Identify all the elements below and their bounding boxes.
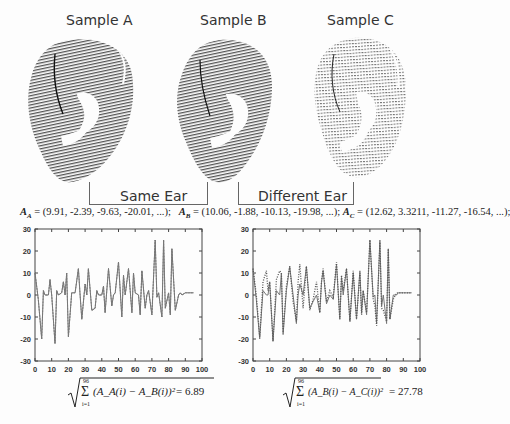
y-tick-label: -10 [238, 313, 249, 322]
series-line-A_A [35, 240, 194, 343]
x-tick-label: 0 [33, 365, 37, 374]
y-tick-label: 30 [23, 225, 31, 234]
y-tick-label: 10 [23, 269, 31, 278]
line-chart-same-ear: -30-20-1001020300102030405060708090100 [10, 222, 210, 374]
svg-text:Σ: Σ [296, 384, 304, 399]
svg-text:i=1: i=1 [82, 401, 90, 407]
x-tick-label: 30 [81, 365, 89, 374]
y-tick-label: -30 [238, 357, 249, 366]
x-tick-label: 70 [366, 365, 374, 374]
sample-c-title: Sample C [327, 12, 394, 28]
y-tick-label: 20 [241, 247, 249, 256]
y-tick-label: 0 [245, 291, 249, 300]
sample-b-title: Sample B [200, 12, 267, 28]
formula-different-ear: 96 Σ i=1 (A_B(i) − A_C(i))² = 27.78 [281, 375, 441, 409]
formula-same-ear: 96 Σ i=1 (A_A(i) − A_B(i))² = 6.89 [66, 375, 216, 409]
y-tick-label: 30 [241, 225, 249, 234]
x-tick-label: 10 [266, 365, 274, 374]
x-tick-label: 100 [414, 365, 427, 374]
ear-point-cloud-c [300, 34, 420, 184]
svg-text:= 6.89: = 6.89 [176, 385, 205, 397]
svg-text:Σ: Σ [81, 384, 89, 399]
vector-b: AB = (10.06, -1.88, -10.13, -19.98, ...)… [179, 206, 340, 217]
ear-point-cloud-b [160, 34, 290, 184]
x-tick-label: 20 [282, 365, 290, 374]
x-tick-label: 100 [196, 365, 209, 374]
x-tick-label: 80 [382, 365, 390, 374]
vector-definitions: AA = (9.91, -2.39, -9.63, -20.01, ...); … [20, 206, 471, 220]
x-tick-label: 60 [349, 365, 357, 374]
x-tick-label: 90 [181, 365, 189, 374]
plot-frame [35, 229, 202, 361]
y-tick-label: 0 [27, 291, 31, 300]
x-tick-label: 40 [98, 365, 106, 374]
series-line-A_B [35, 240, 194, 343]
x-tick-label: 30 [299, 365, 307, 374]
vector-c: AC = (12.62, 3.3211, -11.27, -16.54, ...… [343, 206, 510, 217]
y-tick-label: -20 [238, 335, 249, 344]
x-tick-label: 50 [332, 365, 340, 374]
same-ear-label: Same Ear [120, 188, 187, 204]
x-tick-label: 50 [114, 365, 122, 374]
x-tick-label: 0 [251, 365, 255, 374]
svg-text:i=1: i=1 [297, 401, 305, 407]
y-tick-label: 10 [241, 269, 249, 278]
y-tick-label: -30 [20, 357, 31, 366]
ear-point-cloud-a [15, 34, 145, 184]
x-tick-label: 70 [148, 365, 156, 374]
svg-text:(A_A(i) − A_B(i))²: (A_A(i) − A_B(i))² [93, 385, 176, 398]
x-tick-label: 80 [164, 365, 172, 374]
y-tick-label: -20 [20, 335, 31, 344]
x-tick-label: 10 [48, 365, 56, 374]
sample-a-title: Sample A [66, 12, 133, 28]
line-chart-different-ear: -30-20-1001020300102030405060708090100 [228, 222, 428, 374]
y-tick-label: -10 [20, 313, 31, 322]
x-tick-label: 90 [399, 365, 407, 374]
x-tick-label: 40 [316, 365, 324, 374]
svg-text:= 27.78: = 27.78 [389, 385, 423, 397]
different-ear-label: Different Ear [258, 188, 347, 204]
x-tick-label: 60 [131, 365, 139, 374]
vector-a: AA = (9.91, -2.39, -9.63, -20.01, ...); [20, 206, 171, 217]
x-tick-label: 20 [64, 365, 72, 374]
svg-text:(A_B(i) − A_C(i))²: (A_B(i) − A_C(i))² [308, 386, 384, 398]
y-tick-label: 20 [23, 247, 31, 256]
